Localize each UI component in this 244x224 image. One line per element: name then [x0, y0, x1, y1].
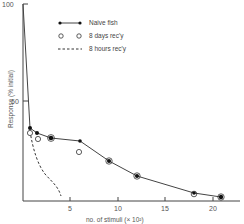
x-tick-label-5: 5: [68, 205, 72, 212]
8days-point: [35, 136, 40, 141]
8days-point: [27, 130, 32, 135]
naive-point: [49, 136, 54, 141]
x-tick-label-15: 15: [161, 205, 169, 212]
legend-naive-marker: [58, 21, 61, 24]
y-axis-label: Response (% initial): [7, 70, 15, 128]
legend-8days-marker: [77, 34, 81, 38]
legend-label-naive: Naive fish: [89, 19, 118, 26]
legend-naive-marker: [78, 21, 81, 24]
x-tick-label-10: 10: [114, 205, 122, 212]
legend: Naive fish 8 days rec'y 8 hours rec'y: [58, 19, 127, 53]
chart: 100 50 5 10 15 20 no. of stimuli (× 10²)…: [0, 0, 244, 224]
naive-point: [219, 195, 223, 199]
naive-point: [107, 159, 111, 163]
legend-label-8hours: 8 hours rec'y: [89, 45, 127, 53]
8days-point: [76, 149, 81, 154]
x-axis-label: no. of stimuli (× 10²): [86, 216, 144, 224]
naive-point: [35, 131, 39, 135]
legend-8days-marker: [59, 34, 63, 38]
naive-point: [78, 139, 82, 143]
naive-point: [28, 126, 32, 130]
x-tick-label-20: 20: [209, 205, 217, 212]
y-tick-label-100: 100: [2, 1, 14, 8]
series-8-hours-recy: [30, 131, 61, 196]
legend-label-8days: 8 days rec'y: [89, 32, 124, 40]
naive-point: [135, 174, 139, 178]
